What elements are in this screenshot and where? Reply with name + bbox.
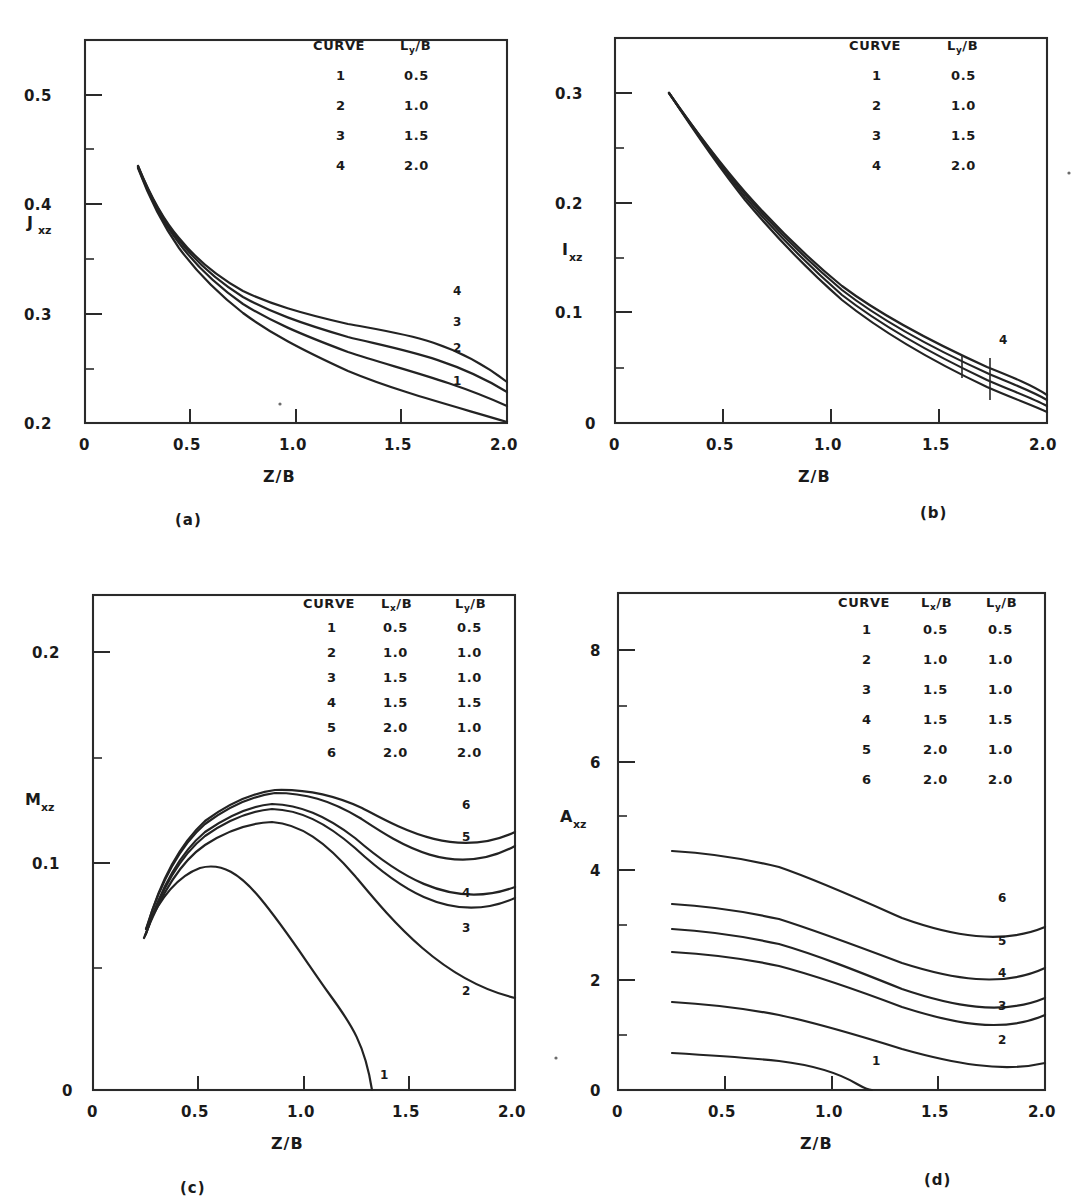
x-axis-title-b: Z/B xyxy=(798,467,831,486)
curve-label-d-2: 2 xyxy=(998,1033,1006,1047)
panel-b: 0.3 0.2 0.1 0 I xz 0 0.5 1.0 1.5 2.0 Z/B… xyxy=(542,0,1084,540)
y-axis-title-a: J xz xyxy=(26,213,52,237)
panel-c: 0.2 0.1 0 M xz 0 0.5 1.0 1.5 2.0 Z/B CUR… xyxy=(0,560,542,1202)
legend-d-row-3-lyb: 1.0 xyxy=(988,682,1013,697)
legend-a-row-2-value: 1.0 xyxy=(404,98,429,113)
y-tick-label-c-0: 0 xyxy=(62,1082,73,1100)
y-tick-label-a-0: 0.5 xyxy=(24,87,52,105)
curve-b-3 xyxy=(669,93,1047,400)
legend-d-row-5-curve: 5 xyxy=(862,742,872,757)
legend-d-row-6-curve: 6 xyxy=(862,772,872,787)
x-tick-label-a-2: 1.0 xyxy=(279,436,307,454)
legend-a-row-4-curve: 4 xyxy=(336,158,346,173)
curve-label-a-4: 4 xyxy=(453,284,461,298)
legend-b-row-1-curve: 1 xyxy=(872,68,882,83)
y-axis-title-a-main: J xyxy=(26,213,34,232)
legend-c-header-curve: CURVE xyxy=(303,596,355,611)
curve-d-4 xyxy=(672,929,1045,1008)
panel-caption-a: (a) xyxy=(175,511,202,529)
legend-b-row-2-value: 1.0 xyxy=(951,98,976,113)
curve-label-c-6: 6 xyxy=(462,798,470,812)
legend-c-row-4-lyb: 1.5 xyxy=(457,695,482,710)
curve-label-b-4: 4 xyxy=(999,333,1007,347)
legend-c-row-1-lxb: 0.5 xyxy=(383,620,408,635)
x-tick-label-d-4: 2.0 xyxy=(1028,1103,1056,1121)
curve-label-a-2: 2 xyxy=(453,341,461,355)
x-axis-ticks-d xyxy=(725,1076,938,1090)
legend-a-row-1-value: 0.5 xyxy=(404,68,429,83)
legend-d-row-3-lxb: 1.5 xyxy=(923,682,948,697)
x-axis-ticks-a xyxy=(190,409,401,423)
curve-label-c-4: 4 xyxy=(462,886,470,900)
legend-d-row-4-curve: 4 xyxy=(862,712,872,727)
legend-d-row-2-lxb: 1.0 xyxy=(923,652,948,667)
legend-c: CURVE Lx/B Ly/B 1 0.5 0.5 2 1.0 1.0 3 1.… xyxy=(303,596,486,760)
x-tick-label-a-4: 2.0 xyxy=(490,436,518,454)
panel-caption-b: (b) xyxy=(920,504,947,522)
legend-d-row-3-curve: 3 xyxy=(862,682,872,697)
legend-d-row-4-lxb: 1.5 xyxy=(923,712,948,727)
four-panel-figure: 0.5 0.4 0.3 0.2 J xz 0 0.5 1.0 1.5 2.0 Z… xyxy=(0,0,1084,1202)
legend-d-header-curve: CURVE xyxy=(838,595,890,610)
curve-label-d-1: 1 xyxy=(872,1054,880,1068)
curve-label-c-5: 5 xyxy=(462,830,470,844)
legend-c-row-1-curve: 1 xyxy=(327,620,337,635)
y-axis-title-a-sub: xz xyxy=(38,224,52,237)
y-tick-label-d-1: 2 xyxy=(590,972,601,990)
scan-speck-a xyxy=(278,402,281,405)
curve-c-5 xyxy=(146,793,515,929)
legend-c-header-lxb: Lx/B xyxy=(381,596,412,613)
y-axis-ticks-c xyxy=(93,652,110,968)
y-axis-title-c-main: M xyxy=(25,790,42,809)
curve-b-4 xyxy=(669,93,1047,395)
legend-a-row-4-value: 2.0 xyxy=(404,158,429,173)
x-axis-ticks-c xyxy=(198,1076,409,1090)
x-axis-ticks-b xyxy=(723,409,939,423)
y-axis-title-d-sub: xz xyxy=(573,818,587,831)
y-axis-title-b-sub: xz xyxy=(569,251,583,264)
y-tick-label-d-0: 0 xyxy=(590,1082,601,1100)
y-tick-label-d-2: 4 xyxy=(590,862,601,880)
x-tick-label-c-2: 1.0 xyxy=(287,1103,315,1121)
x-tick-label-b-0: 0 xyxy=(609,436,620,454)
y-axis-ticks-a xyxy=(85,95,102,369)
legend-b-header-curve: CURVE xyxy=(849,38,901,53)
curve-label-a-3: 3 xyxy=(453,315,461,329)
legend-d-row-1-curve: 1 xyxy=(862,622,872,637)
legend-d-row-2-lyb: 1.0 xyxy=(988,652,1013,667)
scan-speck-b xyxy=(1067,171,1070,174)
legend-d-row-6-lyb: 2.0 xyxy=(988,772,1013,787)
legend-b-row-4-curve: 4 xyxy=(872,158,882,173)
legend-d-row-6-lxb: 2.0 xyxy=(923,772,948,787)
plot-frame-d xyxy=(618,593,1045,1090)
y-axis-ticks-b xyxy=(615,93,632,368)
y-tick-label-c-1: 0.1 xyxy=(32,855,60,873)
legend-d-header-lxb: Lx/B xyxy=(921,595,952,612)
legend-c-row-5-lxb: 2.0 xyxy=(383,720,408,735)
curve-label-c-1: 1 xyxy=(380,1068,388,1082)
legend-c-header-lyb: Ly/B xyxy=(455,596,486,613)
x-tick-label-d-1: 0.5 xyxy=(708,1103,736,1121)
curve-a-4 xyxy=(138,166,507,382)
x-tick-label-b-2: 1.0 xyxy=(814,436,842,454)
y-tick-label-d-4: 8 xyxy=(590,642,601,660)
y-axis-title-c: M xz xyxy=(25,790,55,814)
panel-caption-d: (d) xyxy=(924,1171,951,1189)
x-axis-title-d: Z/B xyxy=(800,1134,833,1153)
y-tick-label-a-2: 0.3 xyxy=(24,306,52,324)
x-tick-label-a-1: 0.5 xyxy=(173,436,201,454)
legend-c-row-6-curve: 6 xyxy=(327,745,337,760)
legend-c-row-4-curve: 4 xyxy=(327,695,337,710)
y-axis-title-d-main: A xyxy=(560,807,573,826)
y-axis-ticks-d xyxy=(618,650,635,1035)
legend-c-row-1-lyb: 0.5 xyxy=(457,620,482,635)
legend-c-row-5-lyb: 1.0 xyxy=(457,720,482,735)
legend-d-row-5-lxb: 2.0 xyxy=(923,742,948,757)
y-tick-label-a-3: 0.2 xyxy=(24,415,52,433)
legend-b-row-3-value: 1.5 xyxy=(951,128,976,143)
x-tick-label-b-4: 2.0 xyxy=(1029,436,1057,454)
y-axis-title-b: I xz xyxy=(562,240,583,264)
curve-d-3 xyxy=(672,952,1045,1025)
legend-a-row-1-curve: 1 xyxy=(336,68,346,83)
x-tick-label-c-0: 0 xyxy=(87,1103,98,1121)
